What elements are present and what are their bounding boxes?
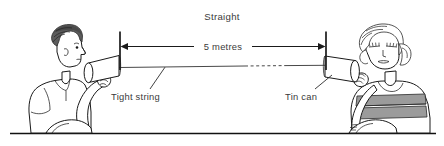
tin-can-telephone-diagram: Straight bbox=[0, 0, 444, 146]
girl-neck bbox=[385, 71, 396, 86]
tin-can-label: Tin can bbox=[285, 91, 317, 102]
left-can-open-end bbox=[84, 63, 93, 83]
dimension-annotation: 5 metres bbox=[120, 32, 326, 71]
dimension-value-label: 5 metres bbox=[204, 41, 243, 52]
girl-stripe-2 bbox=[355, 106, 427, 119]
left-figure-boy bbox=[29, 25, 121, 134]
tight-string-label: Tight string bbox=[111, 91, 160, 102]
dimension-arrow-right-icon bbox=[318, 43, 326, 50]
boy-neck bbox=[62, 71, 70, 84]
diagram-title: Straight bbox=[204, 11, 239, 22]
diagram-canvas: Straight bbox=[0, 0, 444, 146]
tight-string-leader-line bbox=[150, 67, 165, 89]
string-segment-left bbox=[119, 66, 245, 68]
girl-hair-side-right bbox=[399, 44, 411, 65]
right-figure-girl bbox=[323, 24, 430, 133]
boy-eye bbox=[76, 46, 79, 49]
tin-can-leader-line bbox=[315, 75, 332, 89]
tin-can-callout: Tin can bbox=[285, 75, 332, 102]
dimension-arrow-left-icon bbox=[121, 43, 129, 50]
right-can-open-end bbox=[351, 60, 360, 82]
tight-string bbox=[119, 65, 325, 67]
left-tin-can bbox=[84, 56, 121, 83]
